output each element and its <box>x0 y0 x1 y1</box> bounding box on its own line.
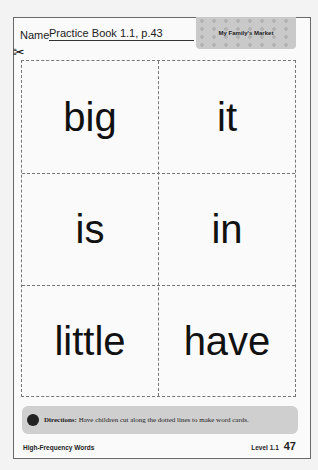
word-card: it <box>159 61 295 173</box>
footer-level: Level 1.1 <box>251 444 278 451</box>
directions-body: Have children cut along the dotted lines… <box>77 416 249 424</box>
page-number: 47 <box>284 440 296 452</box>
title-banner: My Family's Market <box>196 17 296 49</box>
apple-icon <box>27 414 39 426</box>
footer-page-info: Level 1.147 <box>251 440 296 452</box>
word-card: have <box>159 286 295 396</box>
name-field: Practice Book 1.1, p.43 <box>49 27 194 41</box>
scissors-icon: ✂ <box>13 45 25 59</box>
directions-box: Directions: Have children cut along the … <box>22 406 298 434</box>
word-card: little <box>22 286 158 396</box>
word-card: in <box>159 174 295 285</box>
directions-label: Directions: <box>44 416 77 424</box>
name-label: Name <box>20 29 49 41</box>
word-card: is <box>22 174 158 285</box>
word-card-grid: big it is in little have <box>21 60 296 397</box>
word-card: big <box>22 61 158 173</box>
directions-text: Directions: Have children cut along the … <box>44 416 249 424</box>
banner-title: My Family's Market <box>196 30 296 36</box>
footer-category: High-Frequency Words <box>23 444 94 451</box>
